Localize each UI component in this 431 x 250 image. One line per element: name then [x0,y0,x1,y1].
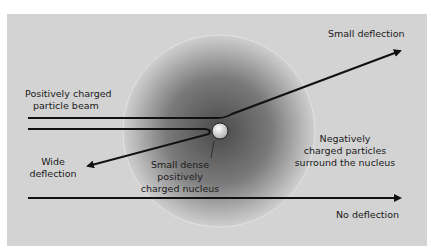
negative-particles-label-line3: surround the nucleus [285,157,405,168]
small-deflection-label: Small deflection [328,28,405,39]
negative-particles-label-line2: charged particles [285,145,405,156]
wide-deflection-label-line2: deflection [25,168,81,179]
nucleus-label-line3: charged nucleus [130,183,230,194]
no-deflection-label: No deflection [336,209,399,220]
nucleus [212,123,228,139]
beam-label-line2: particle beam [33,100,99,111]
nucleus-label-line2: positively [130,171,230,182]
negative-particles-label-line1: Negatively [285,133,405,144]
nucleus-label-line1: Small dense [130,159,230,170]
beam-label-line1: Positively charged [25,88,112,99]
wide-deflection-label-line1: Wide [25,156,81,167]
